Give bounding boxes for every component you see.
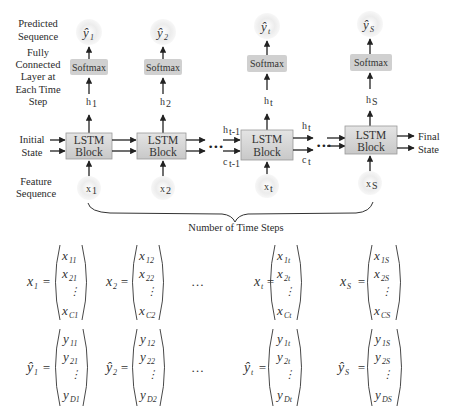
svg-text:2: 2	[113, 368, 117, 377]
svg-text:t-1: t-1	[229, 158, 240, 169]
svg-text:⋮: ⋮	[381, 285, 392, 297]
svg-text:=: =	[120, 360, 129, 375]
svg-text:S: S	[345, 368, 349, 377]
svg-text:Predicted: Predicted	[18, 18, 58, 29]
svg-text:LSTM: LSTM	[148, 134, 179, 146]
svg-text:22: 22	[146, 274, 154, 283]
svg-text:D2: D2	[146, 395, 157, 404]
svg-text:1: 1	[92, 98, 97, 109]
svg-text:1: 1	[90, 33, 94, 42]
svg-text:x: x	[160, 183, 165, 194]
svg-text:x: x	[373, 303, 380, 318]
svg-text:Block: Block	[253, 146, 281, 158]
time-step-2: ŷ 2 Softmax h 2 LSTM Block x 2	[137, 19, 186, 200]
svg-text:x: x	[339, 274, 347, 289]
svg-text:S: S	[372, 180, 378, 191]
svg-text:2: 2	[166, 185, 171, 196]
c-prev-label: c	[223, 156, 228, 167]
svg-text:S: S	[372, 96, 378, 107]
svg-text:y: y	[138, 349, 146, 364]
h-prev-label: h	[223, 124, 228, 135]
svg-text:ŷ: ŷ	[361, 17, 369, 32]
svg-text:2S: 2S	[381, 274, 389, 283]
svg-text:y: y	[138, 331, 146, 346]
svg-text:Ct: Ct	[284, 311, 292, 320]
svg-text:Softmax: Softmax	[250, 58, 284, 69]
svg-text:⋮: ⋮	[70, 368, 81, 380]
svg-text:h: h	[264, 95, 269, 106]
svg-text:Block: Block	[357, 141, 385, 153]
svg-text:12: 12	[147, 339, 155, 348]
svg-text:ŷ: ŷ	[259, 19, 267, 34]
svg-text:⋮: ⋮	[146, 285, 157, 297]
svg-text:State: State	[418, 144, 439, 155]
svg-text:Initial: Initial	[19, 134, 44, 145]
svg-text:h: h	[86, 96, 91, 107]
svg-text:Softmax: Softmax	[354, 57, 388, 68]
svg-text:y: y	[275, 387, 283, 402]
svg-text:y: y	[373, 387, 381, 402]
svg-text:Step: Step	[29, 96, 48, 107]
feature-sequence-label: Feature Sequence	[16, 176, 57, 199]
number-of-time-steps-label: Number of Time Steps	[188, 222, 283, 233]
svg-text:Layer at: Layer at	[21, 71, 56, 82]
svg-text:Block: Block	[75, 146, 103, 158]
svg-text:…: …	[192, 360, 204, 375]
svg-text:S: S	[347, 282, 351, 291]
svg-text:2t: 2t	[284, 357, 291, 366]
svg-text:S: S	[370, 25, 374, 34]
svg-text:LSTM: LSTM	[356, 129, 387, 141]
svg-text:22: 22	[147, 357, 155, 366]
svg-text:D1: D1	[69, 395, 80, 404]
svg-text:x: x	[373, 248, 380, 263]
svg-text:2S: 2S	[382, 357, 390, 366]
time-step-S: ŷ S Softmax h S LSTM Block x S	[345, 11, 397, 195]
lstm-diagram: Predicted Sequence Fully Connected Layer…	[0, 0, 457, 417]
svg-text:⋮: ⋮	[284, 285, 295, 297]
svg-text:x: x	[61, 266, 68, 281]
svg-text:1S: 1S	[382, 339, 390, 348]
svg-text:1: 1	[92, 185, 97, 196]
svg-text:y: y	[61, 387, 69, 402]
svg-text:y: y	[138, 387, 146, 402]
svg-text:11: 11	[70, 339, 77, 348]
svg-text:ŷ: ŷ	[242, 360, 251, 375]
svg-text:x: x	[276, 303, 283, 318]
svg-text:⋮: ⋮	[382, 368, 393, 380]
svg-text:x: x	[138, 266, 145, 281]
svg-text:x: x	[138, 248, 145, 263]
svg-text:12: 12	[146, 256, 154, 265]
svg-text:21: 21	[70, 357, 78, 366]
svg-text:x: x	[61, 303, 68, 318]
svg-text:t: t	[308, 156, 311, 167]
svg-text:1t: 1t	[284, 256, 291, 265]
svg-text:=: =	[357, 360, 366, 375]
svg-text:⋮: ⋮	[147, 368, 158, 380]
svg-text:21: 21	[69, 274, 77, 283]
svg-text:2: 2	[113, 282, 117, 291]
svg-text:ŷ: ŷ	[81, 25, 89, 40]
time-step-1: ŷ 1 Softmax h 1 LSTM Block x 1	[66, 19, 112, 200]
svg-text:=: =	[120, 274, 129, 289]
svg-text:CS: CS	[381, 311, 390, 320]
svg-text:Softmax: Softmax	[72, 62, 106, 73]
svg-text:2: 2	[166, 98, 171, 109]
svg-text:LSTM: LSTM	[252, 133, 283, 145]
svg-text:C1: C1	[69, 311, 78, 320]
final-state-label: Final State	[418, 131, 440, 155]
x-equations: x 1 = x 11 x 21 ⋮ x C1 x 2 = x 12 x 22 ⋮…	[26, 245, 401, 320]
c-t-label: c	[302, 154, 307, 165]
svg-text:1S: 1S	[381, 256, 389, 265]
svg-text:h: h	[366, 94, 371, 105]
svg-text:11: 11	[69, 256, 76, 265]
fully-connected-label: Fully Connected Layer at Each Time Step	[15, 47, 61, 107]
svg-text:2: 2	[164, 33, 168, 42]
svg-text:⋮: ⋮	[69, 285, 80, 297]
svg-text:Sequence: Sequence	[18, 31, 59, 42]
initial-state-label: Initial State	[19, 134, 44, 158]
time-steps-brace	[88, 202, 373, 222]
svg-text:t: t	[270, 183, 273, 194]
svg-text:Each Time: Each Time	[15, 84, 61, 95]
svg-text:=: =	[42, 274, 51, 289]
svg-text:Feature: Feature	[20, 176, 52, 187]
